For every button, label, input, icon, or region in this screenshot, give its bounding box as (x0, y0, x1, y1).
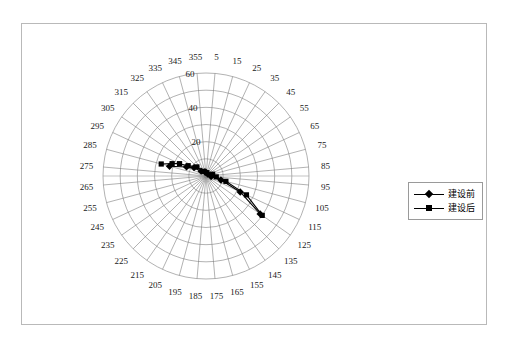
data-point-marker (214, 174, 219, 179)
data-point-marker (159, 161, 164, 166)
angle-tick-label-235: 235 (101, 240, 115, 250)
angle-tick-label-195: 195 (168, 287, 182, 297)
angle-tick-label-245: 245 (90, 222, 104, 232)
angle-tick-label-305: 305 (101, 103, 115, 113)
angle-tick-label-275: 275 (80, 161, 94, 171)
figure-frame: 5152535455565758595105115125135145155165… (21, 23, 487, 325)
data-point-marker (170, 161, 175, 166)
legend-marker-diamond-icon (414, 188, 444, 200)
angle-tick-label-175: 175 (210, 291, 224, 301)
angle-tick-label-155: 155 (250, 280, 264, 290)
legend-label-1: 建设后 (448, 202, 475, 214)
angle-tick-label-165: 165 (230, 287, 244, 297)
angle-tick-label-45: 45 (286, 87, 296, 97)
data-point-marker (260, 213, 265, 218)
chart-legend: 建设前 建设后 (408, 182, 483, 220)
data-point-marker (244, 192, 249, 197)
angle-tick-label-5: 5 (214, 52, 219, 62)
data-point-marker (186, 163, 191, 168)
angle-tick-label-225: 225 (114, 256, 128, 266)
angle-tick-label-205: 205 (149, 280, 163, 290)
angle-tick-label-105: 105 (315, 203, 329, 213)
angle-tick-label-355: 355 (189, 52, 203, 62)
angle-tick-label-185: 185 (189, 291, 203, 301)
legend-marker-square-icon (414, 202, 444, 214)
angle-tick-label-15: 15 (233, 56, 243, 66)
radial-tick-label-40: 40 (189, 103, 199, 113)
radial-tick-label-20: 20 (192, 137, 202, 147)
angle-tick-label-285: 285 (83, 140, 97, 150)
data-point-marker (194, 164, 199, 169)
angle-tick-label-115: 115 (308, 222, 322, 232)
angle-tick-label-255: 255 (83, 203, 97, 213)
angle-tick-label-315: 315 (114, 87, 128, 97)
angle-tick-label-55: 55 (300, 103, 310, 113)
legend-item-1: 建设后 (414, 201, 475, 215)
data-point-marker (223, 179, 228, 184)
radial-tick-label-60: 60 (186, 69, 196, 79)
angle-tick-label-265: 265 (80, 182, 94, 192)
angle-tick-label-125: 125 (298, 240, 312, 250)
angle-tick-label-65: 65 (310, 121, 320, 131)
angle-tick-label-335: 335 (149, 63, 163, 73)
legend-item-0: 建设前 (414, 187, 475, 201)
legend-label-0: 建设前 (448, 188, 475, 200)
angle-tick-label-295: 295 (90, 121, 104, 131)
angle-tick-label-215: 215 (130, 270, 144, 280)
angle-tick-label-325: 325 (130, 73, 144, 83)
angle-tick-label-75: 75 (317, 140, 327, 150)
angle-tick-label-345: 345 (168, 56, 182, 66)
data-point-marker (177, 161, 182, 166)
angle-tick-label-95: 95 (321, 182, 331, 192)
angle-tick-label-85: 85 (321, 161, 331, 171)
radial-tick-labels: 204060 (186, 69, 201, 147)
data-point-marker (204, 170, 209, 175)
angle-tick-label-25: 25 (252, 63, 261, 73)
angle-tick-label-145: 145 (268, 270, 282, 280)
polar-chart: 5152535455565758595105115125135145155165… (22, 24, 486, 324)
angle-tick-label-35: 35 (270, 73, 280, 83)
angle-tick-label-135: 135 (284, 256, 298, 266)
